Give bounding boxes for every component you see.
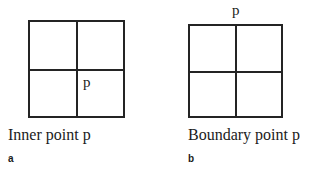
figure-panel-b: p Boundary point p b	[160, 0, 313, 179]
grid-square-boundary-point	[188, 24, 283, 118]
figure-root: p Inner point p a p Boundary point p b	[0, 0, 313, 179]
figure-panel-a: p Inner point p a	[0, 0, 160, 179]
panel-sub-label-a: a	[8, 154, 14, 164]
panel-sub-label-b: b	[188, 154, 194, 164]
panel-caption-b: Boundary point p	[188, 127, 300, 143]
point-label-inner: p	[83, 75, 91, 90]
grid-divider-horizontal	[190, 71, 281, 73]
panel-caption-a: Inner point p	[8, 127, 91, 143]
grid-divider-horizontal	[30, 69, 123, 71]
grid-square-inner-point	[28, 20, 125, 118]
point-label-boundary: p	[232, 3, 240, 18]
